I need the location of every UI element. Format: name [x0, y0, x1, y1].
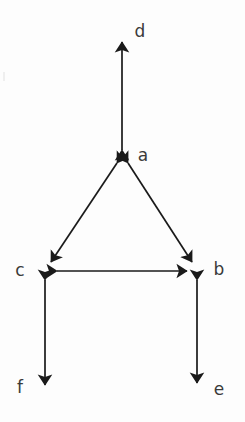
node-label-c: c: [15, 262, 24, 279]
node-label-a: a: [138, 147, 148, 164]
edge-a-b: [128, 163, 192, 262]
graph-svg: [0, 0, 245, 422]
node-label-e: e: [214, 381, 224, 398]
node-label-d: d: [135, 23, 146, 40]
node-label-f: f: [17, 379, 23, 396]
diagram-canvas: d a c b f e: [0, 0, 245, 422]
edge-a-c: [51, 163, 117, 262]
node-label-b: b: [214, 261, 225, 278]
